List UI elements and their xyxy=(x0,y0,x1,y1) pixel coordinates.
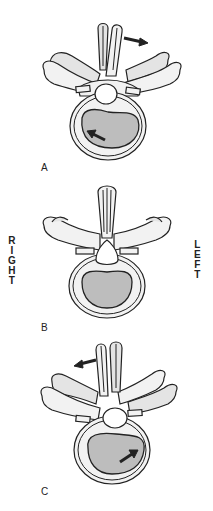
vertebra-neutral-b-illustration xyxy=(0,170,213,340)
side-label-left-letter: T xyxy=(194,270,200,280)
side-label-right: R I G H T xyxy=(8,236,16,286)
arrow-left-icon xyxy=(74,360,96,368)
panel-label-c: C xyxy=(41,486,48,497)
panel-a: A xyxy=(0,0,213,175)
panel-b: B xyxy=(0,170,213,340)
panel-c: C xyxy=(0,330,213,511)
side-label-left: L E F T xyxy=(194,240,201,280)
arrow-right-icon xyxy=(124,38,148,46)
vertebra-rotated-a-illustration xyxy=(0,0,213,175)
vertebra-rotated-c-illustration xyxy=(0,330,213,511)
side-label-right-letter: T xyxy=(9,276,15,286)
